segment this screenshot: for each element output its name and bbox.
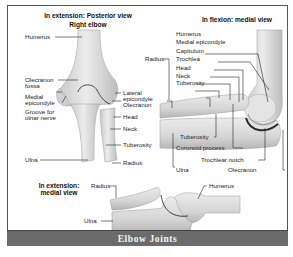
label-medial-epicondyle-2: epicondyle bbox=[25, 100, 55, 107]
label-trochlea: Trochlea bbox=[176, 56, 200, 63]
posterior-view-title: In extension: Posterior view bbox=[38, 12, 138, 19]
posterior-view-subtitle: Right elbow bbox=[38, 21, 138, 28]
label-medial-epicondyle-flexion: Medial epicondyle bbox=[176, 39, 226, 46]
caption-text: Elbow Joints bbox=[118, 234, 178, 244]
label-olecranon-posterior: Olecranon bbox=[123, 102, 152, 109]
extension-medial-title-2: medial view bbox=[34, 189, 84, 196]
label-humerus-extension: Humerus bbox=[209, 183, 234, 190]
label-tuberosity-flexion-bottom: Tuberosity bbox=[180, 134, 209, 141]
label-ulna-flexion: Ulna bbox=[176, 167, 189, 174]
label-ulna-posterior: Ulna bbox=[25, 157, 38, 164]
label-olecranon-flexion: Olecranon bbox=[228, 167, 257, 174]
label-radius-posterior: Radius bbox=[123, 160, 142, 167]
label-radius-flexion: Radius bbox=[145, 56, 164, 63]
label-neck-posterior: Neck bbox=[123, 126, 137, 133]
flexion-view-title: In flexion: medial view bbox=[202, 16, 272, 23]
extension-medial-view-bones bbox=[101, 186, 240, 234]
label-head-flexion: Head bbox=[176, 65, 191, 72]
label-olecranon-fossa-2: fossa bbox=[25, 83, 40, 90]
label-humerus-flexion: Humerus bbox=[176, 31, 201, 38]
label-radius-extension: Radius bbox=[91, 183, 110, 190]
label-tuberosity-flexion-top: Tuberosity bbox=[176, 80, 205, 87]
label-tuberosity-posterior: Tuberosity bbox=[123, 142, 152, 149]
label-ulna-extension: Ulna bbox=[84, 218, 97, 225]
label-capitulum: Capitulum bbox=[176, 48, 204, 55]
label-trochlear-notch: Trochlear notch bbox=[201, 157, 244, 164]
posterior-view-bones bbox=[40, 30, 121, 163]
label-coronoid-process: Coronoid process bbox=[176, 145, 225, 152]
label-humerus-posterior: Humerus bbox=[25, 34, 50, 41]
label-head-posterior: Head bbox=[123, 114, 138, 121]
caption-bar: Elbow Joints bbox=[7, 230, 288, 246]
label-groove-2: ulnar nerve bbox=[25, 115, 56, 122]
